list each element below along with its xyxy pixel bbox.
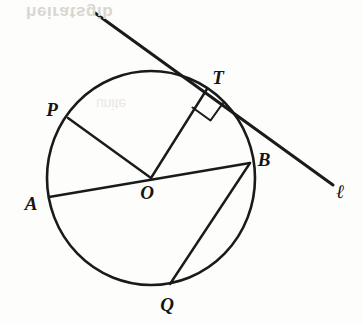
point-label-B: B (257, 149, 271, 170)
segment-radius-OT (151, 89, 207, 178)
geometry-figure-container: heiratsgib unite P A O B T Q ℓ (0, 0, 363, 324)
point-label-Q: Q (160, 294, 174, 315)
segment-radius-OP (68, 118, 151, 178)
tangent-line-label-l: ℓ (336, 181, 344, 202)
point-label-O: O (140, 182, 154, 203)
circle-tangent-diagram: P A O B T Q ℓ (0, 0, 363, 324)
point-label-P: P (45, 99, 58, 120)
tangent-line-l (95, 13, 333, 185)
point-label-T: T (212, 67, 225, 88)
point-label-A: A (24, 193, 38, 214)
